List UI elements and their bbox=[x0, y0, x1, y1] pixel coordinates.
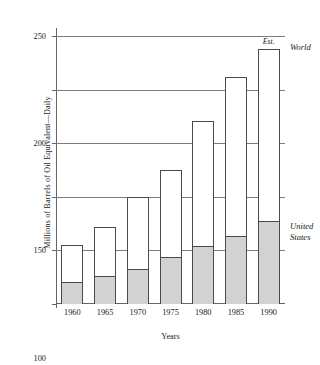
bar-united-states bbox=[94, 276, 116, 304]
oil-consumption-bar-chart: Millions of Barrels of Oil Equivalent—Da… bbox=[0, 0, 320, 365]
bar-united-states bbox=[61, 282, 83, 305]
bar-group: 1975 bbox=[160, 36, 182, 304]
x-axis-tick-label: 1970 bbox=[127, 308, 149, 317]
bars-group: 1960196519701975198019851990Est. bbox=[56, 36, 285, 304]
legend-label-united-states-line1: United bbox=[290, 221, 313, 231]
y-axis-tick: 0 bbox=[52, 304, 56, 305]
y-axis-tick-label: 200 bbox=[34, 139, 46, 148]
x-axis-tick-label: 1990 bbox=[258, 308, 280, 317]
bar-group: 1965 bbox=[94, 36, 116, 304]
y-axis-tick-label: 150 bbox=[34, 246, 46, 255]
bar-united-states bbox=[192, 246, 214, 304]
bar-united-states bbox=[160, 257, 182, 304]
bar-group: 1960 bbox=[61, 36, 83, 304]
bar-group: 1970 bbox=[127, 36, 149, 304]
x-axis-tick-label: 1980 bbox=[192, 308, 214, 317]
bar-united-states bbox=[127, 269, 149, 304]
x-axis-tick-label: 1965 bbox=[94, 308, 116, 317]
bar-group: 1985 bbox=[225, 36, 247, 304]
bar-united-states bbox=[225, 236, 247, 304]
legend-label-world: World bbox=[290, 42, 311, 53]
y-axis-tick-label: 250 bbox=[34, 32, 46, 41]
bar-united-states bbox=[258, 221, 280, 304]
legend-label-united-states: United States bbox=[290, 221, 313, 242]
x-axis-tick-label: 1960 bbox=[61, 308, 83, 317]
annotation-estimate: Est. bbox=[258, 37, 280, 46]
y-axis-tick-label: 100 bbox=[34, 353, 46, 362]
legend-label-united-states-line2: States bbox=[290, 232, 311, 242]
plot-area: 050100150200250 196019651970197519801985… bbox=[56, 36, 285, 304]
x-axis-title: Years bbox=[56, 332, 285, 341]
bar-group: 1990Est. bbox=[258, 36, 280, 304]
x-axis-tick-label: 1975 bbox=[160, 308, 182, 317]
bar-group: 1980 bbox=[192, 36, 214, 304]
x-axis-tick-label: 1985 bbox=[225, 308, 247, 317]
y-axis-title: Millions of Barrels of Oil Equivalent—Da… bbox=[43, 48, 52, 298]
